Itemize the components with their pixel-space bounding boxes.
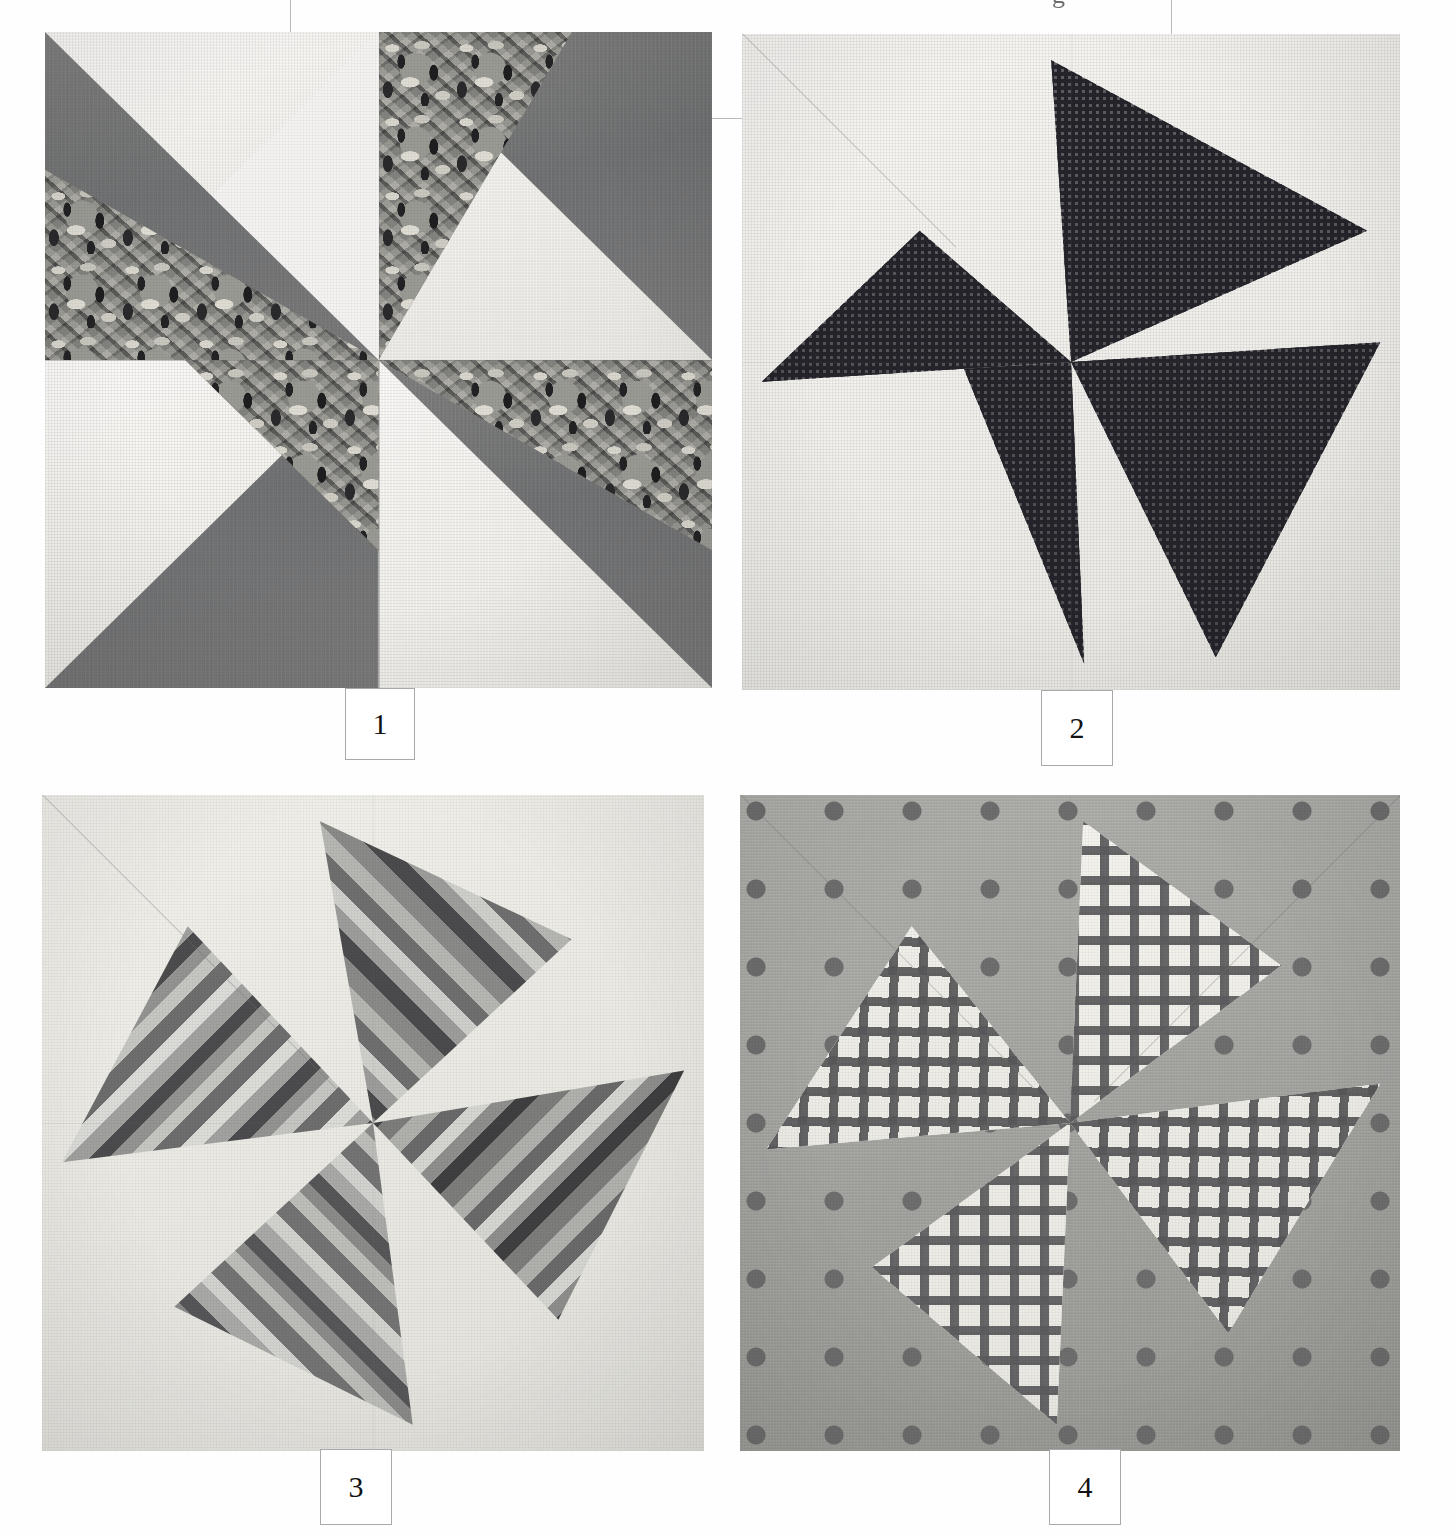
block-1-caption-number: 1 <box>373 709 388 739</box>
quilt-block-4 <box>740 795 1400 1451</box>
quilt-block-1 <box>45 32 712 688</box>
block-1-quadrant-bottom-left <box>45 360 379 688</box>
block-2-caption-box: 2 <box>1041 690 1113 766</box>
block-1-quadrant-top-left <box>45 32 379 360</box>
block-4-caption-number: 4 <box>1078 1472 1093 1502</box>
block-1-patchwork <box>45 32 712 688</box>
page-number-glyph: g <box>1052 0 1065 8</box>
block-3-caption-number: 3 <box>349 1472 364 1502</box>
block-4-caption-box: 4 <box>1049 1449 1121 1525</box>
block-4-patchwork <box>740 795 1400 1451</box>
block-2-patchwork <box>742 34 1400 690</box>
quilt-block-3 <box>42 795 704 1451</box>
block-3-caption-box: 3 <box>320 1449 392 1525</box>
block-1-quadrant-bottom-right <box>379 360 713 688</box>
block-3-patchwork <box>42 795 704 1451</box>
block-2-caption-number: 2 <box>1070 713 1085 743</box>
block-1-quadrant-top-right <box>379 32 713 360</box>
quilt-block-2 <box>742 34 1400 690</box>
block-1-caption-box: 1 <box>345 688 415 760</box>
